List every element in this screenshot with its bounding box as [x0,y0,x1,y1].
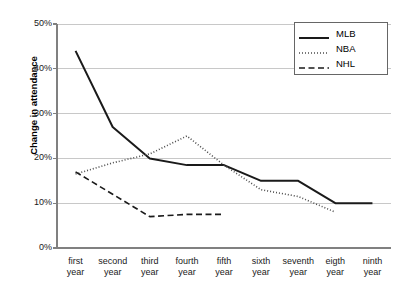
legend-label: NBA [336,43,356,54]
legend-item-mlb[interactable]: MLB [299,26,381,41]
x-axis-tick-label: ninthyear [346,256,399,278]
y-axis-tick-label: 50% [14,18,52,28]
legend-swatch-nhl [299,59,329,69]
legend-swatch-nba [299,44,329,54]
legend-swatch-mlb [299,29,329,39]
y-axis-tick-label: 40% [14,63,52,73]
y-axis-tick-label: 30% [14,108,52,118]
series-line-nba [76,136,336,212]
legend-item-nba[interactable]: NBA [299,41,381,56]
y-axis-tick-label: 20% [14,152,52,162]
attendance-change-line-chart: Change in attendance MLBNBANHL 50%40%30%… [0,0,405,292]
y-axis-tick-label: 10% [14,197,52,207]
series-line-nhl [76,172,224,217]
y-axis-tick-label: 0% [14,242,52,252]
legend-label: MLB [336,28,356,39]
chart-legend: MLBNBANHL [294,22,388,75]
legend-item-nhl[interactable]: NHL [299,56,381,71]
x-axis-tick-label-line: ninth [346,256,399,267]
legend-label: NHL [336,58,355,69]
x-axis-tick-label-line: year [346,267,399,278]
